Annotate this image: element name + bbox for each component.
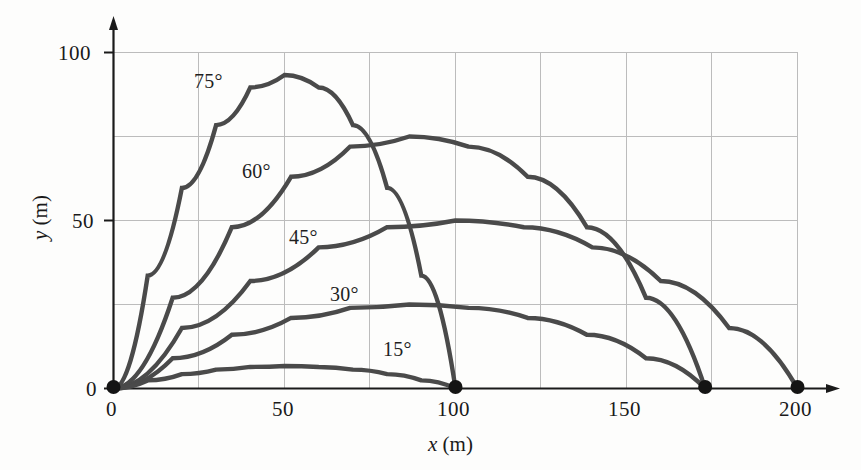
projectile-trajectory-figure: 100 50 0 0 50 100 150 200 75° 60° 45° 30… [0,0,861,470]
angle-label-45deg: 45° [289,226,318,249]
x-tick-label-150: 150 [608,397,641,422]
angle-label-60deg: 60° [242,160,271,183]
y-tick-label-100: 100 [58,41,91,66]
x-axis-arrowhead [826,384,840,393]
marker-173m [698,380,712,394]
marker-200m [791,380,805,394]
chart-canvas [0,0,861,470]
angle-label-15deg: 15° [383,338,412,361]
angle-label-30deg: 30° [330,283,359,306]
axis-ticks [104,53,113,389]
y-axis-arrowhead [109,16,118,30]
angle-label-75deg: 75° [194,70,223,93]
x-tick-label-50: 50 [272,397,294,422]
x-tick-label-0: 0 [106,397,117,422]
marker-origin [107,380,121,394]
x-axis-title: x (m) [428,432,473,457]
x-tick-label-100: 100 [437,397,470,422]
y-tick-label-0: 0 [86,377,97,402]
y-axis-title: y (m) [28,195,53,240]
x-tick-label-200: 200 [779,397,812,422]
y-tick-label-50: 50 [72,209,94,234]
marker-100m [449,380,463,394]
